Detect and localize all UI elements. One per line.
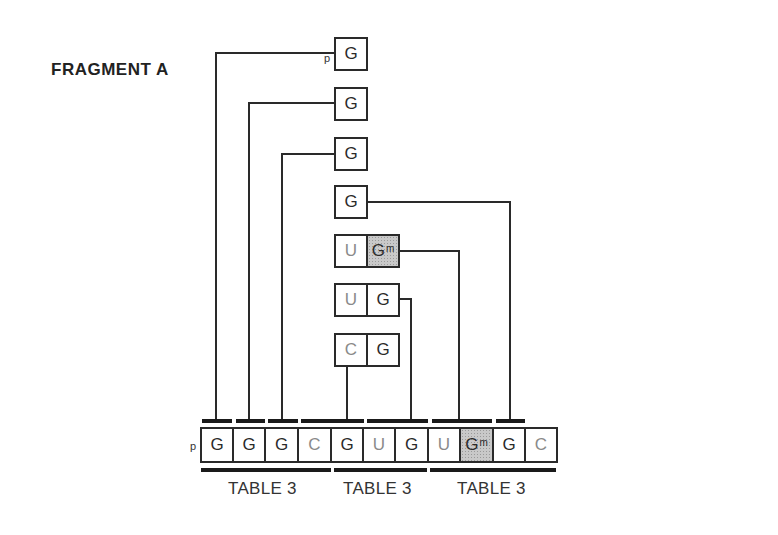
methyl-mark: m [479,437,487,448]
seq-base-3: G [264,427,299,463]
table-label-1: TABLE 3 [228,479,297,499]
fragment-7-c: C [334,333,368,367]
seq-base-5: G [330,427,364,463]
seq-base-2: G [232,427,266,463]
methyl-mark: m [386,243,394,254]
fragment-4-g: G [334,185,368,219]
fragment-5-gm: Gm [366,234,400,268]
base-letter: G [372,241,385,261]
phosphate-label: p [324,52,330,64]
seq-base-8: U [427,427,461,463]
seq-base-9-methylated: Gm [459,427,494,463]
base-letter: G [465,435,478,455]
fragment-7-g: G [366,333,400,367]
seq-base-4: C [297,427,332,463]
seq-base-7: G [394,427,429,463]
table-label-2: TABLE 3 [343,479,412,499]
fragment-6-g: G [366,283,400,317]
sequence-phosphate-label: p [190,440,196,452]
seq-base-6: U [362,427,396,463]
fragment-6-u: U [334,283,368,317]
fragment-1-g: G [334,37,368,71]
seq-base-11: C [524,427,558,463]
fragment-3-g: G [334,137,368,171]
seq-base-1: G [200,427,234,463]
table-label-3: TABLE 3 [457,479,526,499]
seq-base-10: G [492,427,526,463]
fragment-2-g: G [334,87,368,121]
fragment-5-u: U [334,234,368,268]
